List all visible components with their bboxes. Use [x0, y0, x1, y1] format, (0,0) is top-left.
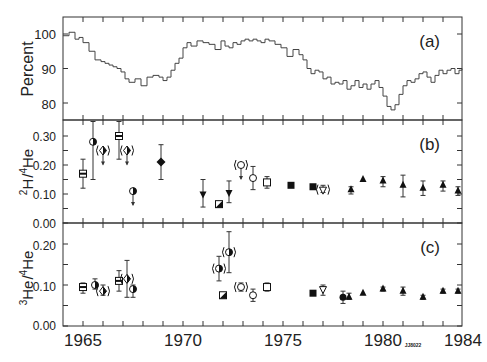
data-point — [250, 166, 257, 189]
data-point — [157, 145, 166, 180]
data-point — [235, 282, 248, 292]
b-tick-000: 0.00 — [33, 217, 57, 231]
a-tick-80: 80 — [42, 97, 56, 112]
panel-b-points — [80, 122, 462, 208]
data-point — [223, 232, 236, 273]
data-point — [360, 289, 367, 296]
data-point — [213, 256, 226, 281]
data-point — [455, 287, 462, 294]
panel-b-tag: (b) — [419, 135, 440, 154]
b-tick-010: 0.10 — [33, 188, 57, 202]
data-point — [235, 160, 248, 180]
c-ylabel: 3He/4He — [18, 251, 36, 306]
data-point — [400, 287, 407, 296]
data-point — [380, 285, 387, 292]
data-point — [97, 146, 110, 166]
data-point — [80, 283, 87, 293]
panel-c-points — [80, 232, 462, 304]
data-point — [288, 182, 295, 189]
a-tick-90: 90 — [42, 62, 56, 77]
data-point — [200, 180, 207, 208]
x-tick-1970: 1970 — [164, 331, 202, 350]
panel-c-tag: (c) — [420, 238, 440, 257]
data-point — [264, 283, 271, 291]
data-point — [130, 188, 137, 207]
data-point — [400, 175, 407, 197]
b-tick-030: 0.30 — [33, 130, 57, 144]
data-point — [121, 146, 134, 166]
c-tick-000: 0.00 — [33, 319, 57, 333]
data-point — [340, 291, 347, 303]
data-point — [216, 201, 223, 208]
figure-code: JJ8022 — [405, 342, 422, 348]
data-point — [80, 159, 87, 188]
data-point — [310, 183, 317, 190]
data-point — [360, 175, 367, 182]
data-point — [226, 181, 233, 203]
chart: 100 90 80 0.30 0.20 0.10 0.00 0.20 0.10 … — [0, 0, 487, 362]
data-point — [220, 292, 227, 299]
data-point — [116, 271, 123, 292]
data-point — [420, 293, 427, 300]
data-point — [130, 285, 137, 297]
c-tick-010: 0.10 — [33, 280, 57, 294]
data-point — [317, 185, 330, 195]
data-point — [264, 177, 271, 189]
data-point — [320, 285, 327, 295]
x-tick-1965: 1965 — [64, 331, 102, 350]
data-point — [250, 289, 257, 301]
a-ylabel: Percent — [19, 41, 36, 97]
panel-a-line — [63, 32, 462, 110]
data-point — [380, 176, 387, 186]
data-point — [420, 181, 427, 196]
data-point — [346, 293, 353, 300]
x-tick-1975: 1975 — [264, 331, 302, 350]
x-tick-1980: 1980 — [364, 331, 402, 350]
data-point — [348, 185, 355, 194]
c-tick-020: 0.20 — [33, 239, 57, 253]
data-point — [440, 181, 447, 191]
x-tick-1984: 1984 — [444, 331, 482, 350]
a-tick-100: 100 — [34, 27, 56, 42]
data-point — [440, 287, 447, 294]
panel-a-tag: (a) — [419, 32, 440, 51]
data-point — [90, 122, 97, 180]
b-tick-020: 0.20 — [33, 159, 57, 173]
data-point — [310, 290, 317, 297]
